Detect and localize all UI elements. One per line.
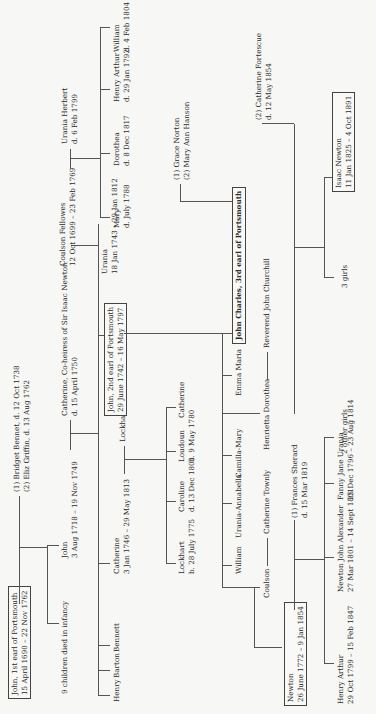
marriage-line-newton-2 [294,124,295,414]
node-2-other-girls: 2 other girls [340,409,350,454]
node-name: Henry Arthur [336,606,346,704]
node-name: Dorothea [112,115,122,166]
node-spouses-1st-earl: (1) Bridget Bennet, d. 12 Oct 1738 (2) E… [12,365,31,492]
node-camilla-mary: Camilla-Mary [234,429,244,478]
node-dates: 26 June 1772 – 9 Jan 1854 [296,606,306,702]
node-name: 2 other girls [340,409,350,454]
child-tick [222,565,232,566]
node-name: Catherine Townly [262,470,272,534]
node-name: Newton [286,606,296,702]
child-tick [98,695,110,696]
node-dates: d. 13 Dec 1801 [187,457,197,512]
node-dates: d. 29 Jan 1792 [122,49,132,102]
node-dates: b. 9 May 1780 [187,410,197,462]
marriage-line-fellowes [70,149,71,169]
node-name: (2) Catherine Fortescue [254,33,264,120]
marriage-line-coulson [267,538,268,566]
sibling-bar-gen5a [324,438,325,664]
child-tick [324,557,334,558]
child-tick [47,623,59,624]
spouse-line: (1) Bridget Bennet, d. 12 Oct 1738 [12,365,22,492]
node-name: Catherine [112,479,122,574]
node-3-girls: 3 girls [340,265,350,288]
child-tick [98,670,110,671]
node-dates: 15 April 1690 – 22 Nov 1762 [20,590,30,695]
node-dates: 12 Oct 1699 – 23 Feb 1769 [68,168,78,266]
sibling-bar-gen4 [222,334,223,588]
node-henry-arthur-fellowes: Henry Arthur d. 29 Jan 1792 [112,49,131,102]
node-name: Mary [112,184,122,228]
node-william-fellowes: William d. 4 Feb 1804 [112,2,131,52]
descent-line-2nd-earl [124,333,222,334]
node-name: 9 children died in infancy [60,601,70,694]
node-william-gen4: William [234,546,244,574]
child-tick [100,27,110,28]
node-john-2nd-earl: John, 2nd earl of Portsmouth 29 June 174… [104,303,127,416]
child-tick [100,217,110,218]
node-isaac-newton: Isaac Newton 11 Jan 1825 – 4 Oct 1891 [332,92,355,192]
node-dates: d. July 1788 [122,184,132,228]
child-tick [166,501,176,502]
sibling-bar-gen5b [324,178,325,278]
marriage-line-3rd-earl [180,201,232,202]
node-dates: d. 15 Mar 1819 [300,444,310,518]
node-urania-annabella: Urania-Annabella [234,474,244,538]
node-name: John, 1st earl of Portsmouth [10,590,20,695]
node-dorothea: Dorothea d. 8 Dec 1817 [112,115,131,166]
node-dates: b. 28 July 1775 [187,519,197,574]
node-dates: 11 Jan 1825 – 4 Oct 1891 [344,96,354,188]
node-urania-herbert: Urania Herbert d. 6 Feb 1799 [60,88,79,144]
node-name: William [112,2,122,52]
node-dates: d. 6 Feb 1799 [70,88,80,144]
node-bennett: Bennett [112,623,122,652]
node-catherine-gordon: Catherine [177,382,187,418]
node-reverend-john-churchill: Reverend John Churchill [262,258,272,348]
child-tick [222,413,260,414]
node-name: (1) Frances Sherard [290,444,300,518]
node-barton: Barton [112,653,122,678]
child-tick [222,333,232,334]
child-tick [324,277,334,278]
marriage-line-john [70,420,71,450]
child-tick [47,545,59,546]
spouse-line: (2) Eliz Griffin, d. 13 Aug 1762 [22,365,32,492]
node-catherine-fortescue: (2) Catherine Fortescue d. 12 May 1854 [254,33,273,120]
node-henrietta-dorothea: Henrietta Dorothea [262,379,272,450]
node-dates: 27 Mar 1801 – 14 Sept 1801 [346,488,356,592]
node-name: John Charles, 3rd earl of Portsmouth [234,191,244,340]
node-name: Henry Arthur [112,49,122,102]
child-tick [222,375,232,376]
node-coulson-fellowes: Coulson Fellowes 12 Oct 1699 – 23 Feb 17… [58,168,77,266]
child-tick [98,645,110,646]
node-frances-sherard: (1) Frances Sherard d. 15 Mar 1819 [290,444,309,518]
child-tick [324,437,334,438]
node-mary: Mary d. July 1788 [112,184,131,228]
node-name: 3 girls [340,265,350,288]
node-name: Coulson [262,569,272,598]
child-tick [222,455,232,456]
node-3rd-earl-spouses: (1) Grace Norton (2) Mary Ann Hanson [172,102,191,180]
node-john-gen2: John 3 Aug 1718 – 19 Nov 1749 [60,461,79,558]
connector-newton [254,588,255,648]
node-catherine-coheiress: Catherine, Co-heiress of Sir Isaac Newto… [60,262,79,416]
node-name: Camilla-Mary [234,429,244,478]
node-lockhart: Lockhart b. 28 July 1775 [177,519,196,574]
node-name: Catherine [177,382,187,418]
child-tick [324,483,334,484]
sibling-bar-extended [98,224,99,384]
child-tick [100,89,110,90]
child-tick [166,407,176,408]
descent-line [19,547,47,548]
node-name: Henry [112,679,122,702]
node-name: Urania [100,178,110,274]
family-tree-diagram: John, 1st earl of Portsmouth 15 April 16… [0,0,376,714]
connector-newton [254,647,282,648]
node-dates: d. 8 Dec 1817 [122,115,132,166]
spouse-line: (1) Grace Norton [172,102,182,180]
node-emma-maria: Emma Maria [234,349,244,396]
node-dates: 29 June 1742 – 16 May 1797 [116,307,126,412]
node-dates: 3 Jan 1746 – 29 May 1813 [122,479,132,574]
node-name: Urania-Annabella [234,474,244,538]
child-tick [222,503,232,504]
sibling-bar-gen3 [98,336,99,696]
